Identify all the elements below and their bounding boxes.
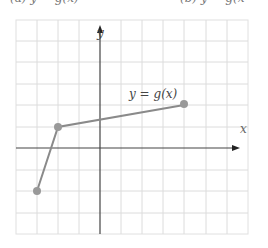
graph: x y y = g(x) (0, 0, 268, 248)
endpoint-left (33, 187, 41, 195)
curve-label: y = g(x) (128, 87, 178, 101)
x-axis-label: x (240, 122, 247, 136)
x-arrow-icon (232, 145, 240, 151)
y-axis-label: y (96, 26, 104, 40)
grid (16, 20, 248, 234)
vertex (54, 123, 62, 131)
endpoint-right (180, 100, 188, 108)
